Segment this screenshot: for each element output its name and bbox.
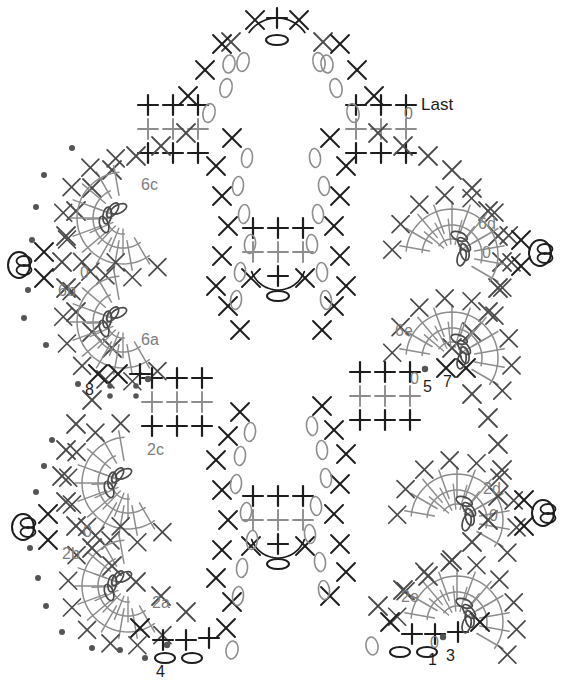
x-stitch-icon (67, 303, 85, 321)
x-stitch-icon (493, 461, 511, 479)
oval-chain-icon (320, 290, 333, 310)
plus-stitch-icon (268, 534, 288, 554)
label-l6e: 6e (395, 322, 413, 339)
x-stitch-icon (223, 129, 241, 147)
x-stitch-icon (325, 421, 343, 439)
x-stitch-icon (35, 269, 53, 287)
x-stitch-icon (127, 573, 145, 591)
plus-stitch-icon (400, 410, 420, 430)
label-l2e: 2e (401, 588, 419, 605)
label-n5: 5 (423, 378, 432, 395)
x-stitch-icon (321, 129, 339, 147)
radial-tick (475, 349, 505, 354)
oval-chain-icon (238, 204, 251, 224)
plus-stitch-icon (268, 266, 288, 286)
x-stitch-icon (381, 613, 399, 631)
x-stitch-icon (60, 469, 77, 486)
x-stitch-icon (500, 227, 517, 244)
x-stitch-icon (149, 259, 166, 276)
x-stitch-icon (124, 269, 141, 286)
dot-marker-icon (107, 383, 113, 389)
oval-chain-icon (314, 552, 327, 572)
x-stitch-icon (337, 157, 355, 175)
x-stitch-icon (512, 231, 530, 249)
plus-stitch-icon (153, 630, 173, 650)
x-stitch-icon (369, 597, 387, 615)
plus-stitch-icon (350, 410, 370, 430)
x-stitch-icon (217, 619, 235, 637)
plus-stitch-icon (448, 622, 468, 642)
x-stitch-icon (55, 204, 72, 221)
x-stitch-icon (441, 452, 458, 469)
x-stitch-icon (35, 243, 53, 261)
x-stitch-icon (53, 467, 71, 485)
x-stitch-icon (60, 572, 77, 589)
radial-tick (127, 345, 132, 375)
x-stitch-icon (313, 321, 331, 339)
oval-chain-icon (455, 494, 474, 508)
plus-stitch-icon (176, 630, 196, 650)
x-stitch-icon (384, 241, 401, 258)
dot-marker-icon (35, 575, 41, 581)
x-stitch-icon (39, 531, 57, 549)
x-stitch-icon (58, 335, 75, 352)
oval-chain-icon (316, 440, 329, 460)
plus-stitch-icon (350, 386, 370, 406)
x-stitch-icon (213, 187, 231, 205)
x-stitch-icon (337, 445, 355, 463)
radial-tick (87, 449, 110, 468)
oval-chain-icon (218, 77, 234, 98)
plus-stitch-icon (371, 143, 391, 163)
radial-tick (119, 609, 124, 639)
plus-stitch-icon (138, 119, 158, 139)
oval-chain-icon (318, 176, 331, 196)
x-stitch-icon (463, 179, 481, 197)
label-l6b: 6b (58, 282, 76, 299)
oval-chain-icon (225, 640, 240, 660)
oval-chain-icon (450, 229, 469, 243)
oval-chain-icon (241, 148, 254, 168)
oval-chain-icon (266, 35, 288, 45)
label-l2a: 2a (152, 594, 170, 611)
x-stitch-icon (468, 557, 485, 574)
plus-stitch-icon (293, 510, 313, 530)
oval-chain-icon (306, 416, 319, 436)
label-n3: 3 (446, 647, 455, 664)
x-stitch-icon (436, 187, 453, 204)
label-n1: 1 (428, 651, 437, 668)
x-stitch-icon (196, 61, 214, 79)
x-stitch-icon (463, 293, 480, 310)
x-stitch-icon (152, 137, 170, 155)
x-stitch-icon (331, 35, 349, 53)
dot-marker-icon (41, 463, 47, 469)
oval-chain-icon (109, 466, 126, 485)
x-stitch-icon (213, 247, 231, 265)
x-stitch-icon (63, 496, 80, 513)
plus-stitch-icon (268, 218, 288, 238)
x-stitch-icon (494, 382, 511, 399)
x-stitch-icon (63, 179, 80, 196)
oval-chain-icon (109, 569, 126, 588)
plus-stitch-icon (138, 95, 158, 115)
oval-chain-icon (182, 653, 202, 663)
x-stitch-icon (463, 385, 481, 403)
dot-marker-icon (21, 315, 27, 321)
oval-chain-icon (230, 290, 243, 310)
plus-stitch-icon (163, 143, 183, 163)
x-stitch-icon (231, 403, 249, 421)
x-stitch-icon (82, 159, 99, 176)
x-stitch-icon (57, 441, 75, 459)
oval-chain-icon (104, 201, 121, 220)
plus-stitch-icon (167, 392, 187, 412)
label-l2d: 2d (483, 480, 501, 497)
plus-stitch-icon (163, 119, 183, 139)
x-stitch-icon (411, 196, 428, 213)
label-n0_right_up: 0 (482, 244, 491, 261)
radial-tick (87, 601, 110, 620)
x-stitch-icon (207, 451, 225, 469)
label-n0_bot: 0 (430, 634, 439, 651)
x-stitch-icon (331, 535, 349, 553)
x-stitch-icon (499, 646, 516, 663)
ring-loop-icon-ring-right-lower (532, 500, 556, 526)
radial-tick (82, 337, 105, 356)
